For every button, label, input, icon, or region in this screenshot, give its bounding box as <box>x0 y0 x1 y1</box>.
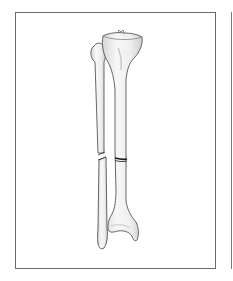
fibula-lower-segment <box>98 157 108 249</box>
tibia <box>102 30 142 241</box>
fibula-upper-segment <box>91 43 106 153</box>
tibia-fibula-illustration <box>0 0 233 281</box>
